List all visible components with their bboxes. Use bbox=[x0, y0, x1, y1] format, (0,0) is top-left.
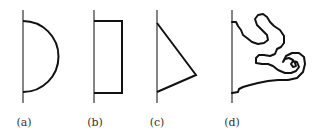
panel-d: (d) bbox=[224, 10, 305, 129]
panel-c: (c) bbox=[150, 10, 196, 129]
panel-label-a: (a) bbox=[16, 116, 31, 129]
panel-label-b: (b) bbox=[87, 116, 103, 129]
irregular-blob-shape bbox=[232, 14, 305, 93]
panel-b: (b) bbox=[87, 10, 122, 129]
semicircle-shape bbox=[23, 21, 58, 92]
rectangle-shape bbox=[94, 21, 122, 93]
figure-svg: (a) (b) (c) (d) bbox=[0, 0, 331, 136]
panel-label-c: (c) bbox=[150, 116, 165, 129]
figure-canvas: (a) (b) (c) (d) bbox=[0, 0, 331, 136]
panel-label-d: (d) bbox=[224, 116, 240, 129]
panel-a: (a) bbox=[16, 10, 58, 129]
triangle-shape bbox=[157, 23, 196, 92]
